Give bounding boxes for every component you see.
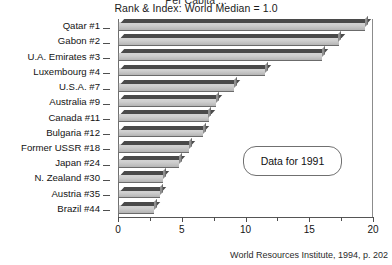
bar bbox=[118, 68, 265, 76]
x-axis-minor-tick bbox=[277, 217, 278, 221]
bar-row bbox=[118, 95, 373, 110]
bar-front-face bbox=[118, 68, 265, 76]
bar-row bbox=[118, 49, 373, 64]
x-axis-minor-tick bbox=[341, 217, 342, 221]
y-axis-label: Austria #35 bbox=[51, 189, 100, 199]
bar-row bbox=[118, 19, 373, 34]
bar-top-face bbox=[121, 34, 345, 38]
x-axis-major-tick bbox=[373, 217, 374, 222]
y-axis-tick bbox=[103, 89, 110, 90]
bar-side-face bbox=[203, 122, 206, 134]
bar bbox=[118, 190, 160, 198]
y-axis-category-labels: Qatar #1Gabon #2U.A. Emirates #3Luxembou… bbox=[0, 19, 110, 217]
x-axis-major-tick bbox=[309, 217, 310, 222]
y-axis-label: Japan #24 bbox=[55, 158, 100, 168]
x-axis-tick-label: 15 bbox=[304, 224, 315, 235]
y-axis-label: Qatar #1 bbox=[63, 21, 100, 31]
x-axis-major-tick bbox=[246, 217, 247, 222]
bar bbox=[118, 38, 339, 46]
bar-side-face bbox=[265, 61, 268, 73]
y-axis-label: Canada #11 bbox=[48, 113, 100, 123]
bar bbox=[118, 53, 322, 61]
y-axis-tick bbox=[103, 28, 110, 29]
y-axis-tick bbox=[103, 119, 110, 120]
x-axis-tick-label: 20 bbox=[367, 224, 378, 235]
bar bbox=[118, 114, 209, 122]
bar-front-face bbox=[118, 99, 216, 107]
y-axis-tick bbox=[103, 43, 110, 44]
bar-side-face bbox=[216, 92, 219, 104]
bar-top-face bbox=[121, 80, 240, 84]
bar-row bbox=[118, 65, 373, 80]
plot-area bbox=[118, 19, 373, 217]
y-axis-label: N. Zealand #30 bbox=[34, 173, 100, 183]
y-axis-label: U.S.A. #7 bbox=[59, 82, 100, 92]
bar-front-face bbox=[118, 144, 189, 152]
x-axis-tick-labels: 05101520 bbox=[118, 224, 374, 238]
y-axis-tick bbox=[103, 104, 110, 105]
y-axis-tick bbox=[103, 149, 110, 150]
annotation-callout-text: Data for 1991 bbox=[261, 155, 325, 167]
bar-side-face bbox=[189, 137, 192, 149]
bar bbox=[118, 175, 163, 183]
bar-row bbox=[118, 126, 373, 141]
chart-subtitle: Rank & Index: World Median = 1.0 bbox=[0, 2, 392, 14]
bar-top-face bbox=[121, 141, 196, 145]
bar-chart-figure: Per Capita ... Rank & Index: World Media… bbox=[0, 0, 392, 265]
x-axis-minor-tick bbox=[214, 217, 215, 221]
x-axis-major-tick bbox=[118, 217, 119, 222]
y-axis-label: Bulgaria #12 bbox=[46, 128, 100, 138]
bar-row bbox=[118, 110, 373, 125]
bar-side-face bbox=[322, 46, 325, 58]
x-axis-tick-label: 5 bbox=[179, 224, 185, 235]
y-axis-tick bbox=[103, 134, 110, 135]
bar bbox=[118, 129, 203, 137]
bar-series bbox=[118, 19, 373, 217]
y-axis-label: U.A. Emirates #3 bbox=[27, 52, 100, 62]
bar-top-face bbox=[121, 126, 210, 130]
bar-front-face bbox=[118, 190, 160, 198]
bar-front-face bbox=[118, 53, 322, 61]
bar-front-face bbox=[118, 159, 179, 167]
bar-top-face bbox=[121, 95, 222, 99]
x-axis-tick-label: 10 bbox=[240, 224, 251, 235]
x-axis-minor-tick bbox=[150, 217, 151, 221]
bar-side-face bbox=[160, 183, 163, 195]
y-axis-tick bbox=[103, 180, 110, 181]
x-axis-tick-label: 0 bbox=[115, 224, 121, 235]
bar-top-face bbox=[121, 156, 185, 160]
bar-front-face bbox=[118, 175, 163, 183]
y-axis-label: Gabon #2 bbox=[58, 36, 100, 46]
bar bbox=[118, 99, 216, 107]
annotation-callout: Data for 1991 bbox=[243, 146, 342, 176]
x-axis-ticks bbox=[118, 217, 374, 223]
bar bbox=[118, 144, 189, 152]
bar bbox=[118, 83, 234, 91]
bar-side-face bbox=[338, 31, 341, 43]
y-axis-tick bbox=[103, 58, 110, 59]
y-axis-label: Former USSR #18 bbox=[21, 143, 100, 153]
bar bbox=[118, 205, 154, 213]
y-axis-tick bbox=[103, 210, 110, 211]
bar-row bbox=[118, 34, 373, 49]
y-axis-label: Australia #9 bbox=[49, 97, 100, 107]
bar bbox=[118, 159, 179, 167]
bar-side-face bbox=[179, 153, 182, 165]
bar-front-face bbox=[118, 38, 339, 46]
bar-side-face bbox=[365, 15, 368, 27]
bar-top-face bbox=[121, 19, 372, 23]
bar-top-face bbox=[121, 110, 215, 114]
bar-row bbox=[118, 80, 373, 95]
bar-front-face bbox=[118, 22, 365, 30]
bar bbox=[118, 22, 365, 30]
bar-front-face bbox=[118, 114, 209, 122]
bar-side-face bbox=[163, 168, 166, 180]
bar-side-face bbox=[154, 198, 157, 210]
y-axis-tick bbox=[103, 73, 110, 74]
y-axis-label: Luxembourg #4 bbox=[33, 67, 100, 77]
bar-side-face bbox=[234, 76, 237, 88]
source-note: World Resources Institute, 1994, p. 202 bbox=[230, 250, 388, 260]
bar-side-face bbox=[208, 107, 211, 119]
y-axis-tick bbox=[103, 195, 110, 196]
bar-top-face bbox=[121, 65, 271, 69]
